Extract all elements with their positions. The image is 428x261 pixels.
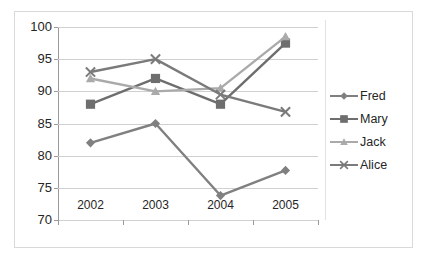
series-fred: [86, 119, 290, 200]
legend-marker-triangle-icon: [339, 137, 349, 147]
data-point: [151, 74, 160, 83]
data-point: [281, 32, 290, 40]
plot-area: [58, 27, 318, 220]
legend-label: Jack: [358, 135, 386, 149]
series-mary: [86, 38, 290, 108]
x-tick-label: 2002: [59, 198, 123, 212]
data-point: [86, 138, 95, 147]
y-tick-label: 100: [6, 20, 52, 33]
series-alice: [86, 55, 290, 117]
legend-marker-x-icon: [339, 160, 349, 170]
x-tick: [123, 220, 124, 225]
x-tick-label: 2004: [189, 198, 253, 212]
series-line: [91, 124, 286, 196]
data-point: [86, 100, 95, 109]
x-tick-label: 2005: [254, 198, 318, 212]
legend-label: Mary: [358, 112, 388, 126]
series-line: [91, 37, 286, 92]
x-tick: [58, 220, 59, 225]
legend-key-square-icon: [330, 112, 358, 126]
y-tick-label: 90: [6, 84, 52, 97]
x-tick-label: 2003: [124, 198, 188, 212]
series-layer: [58, 27, 318, 220]
y-tick-label: 75: [6, 181, 52, 194]
data-point: [216, 100, 225, 109]
x-tick: [253, 220, 254, 225]
legend-label: Fred: [358, 89, 386, 103]
series-line: [91, 43, 286, 104]
x-tick: [188, 220, 189, 225]
legend-item-alice[interactable]: Alice: [330, 153, 412, 176]
series-jack: [86, 32, 290, 95]
legend-key-diamond-icon: [330, 89, 358, 103]
line-chart: 100959085807570 2002200320042005 FredMar…: [0, 0, 428, 261]
legend-divider: [325, 20, 326, 220]
y-tick-label: 70: [6, 213, 52, 226]
legend-marker-square-icon: [339, 114, 349, 124]
legend-key-triangle-icon: [330, 135, 358, 149]
data-point: [281, 166, 290, 175]
series-line: [91, 59, 286, 112]
chart-legend: FredMaryJackAlice: [330, 84, 412, 176]
y-tick-label: 80: [6, 149, 52, 162]
legend-key-x-icon: [330, 158, 358, 172]
legend-item-jack[interactable]: Jack: [330, 130, 412, 153]
legend-label: Alice: [358, 158, 387, 172]
legend-item-mary[interactable]: Mary: [330, 107, 412, 130]
legend-item-fred[interactable]: Fred: [330, 84, 412, 107]
legend-marker-diamond-icon: [339, 91, 349, 101]
y-tick-label: 95: [6, 52, 52, 65]
x-tick: [318, 220, 319, 225]
y-tick-label: 85: [6, 117, 52, 130]
